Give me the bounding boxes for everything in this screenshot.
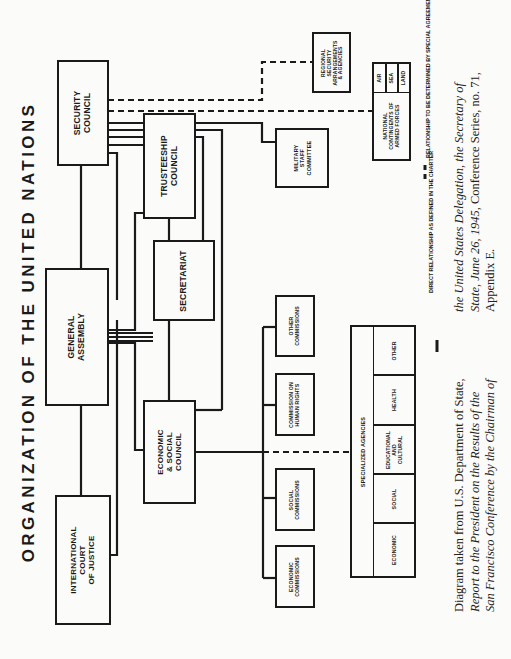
economic-commissions-label: ECONOMIC COMMISSIONS bbox=[289, 557, 301, 597]
un-organization-diagram: ORGANIZATION OF THE UNITED NATIONS SECUR… bbox=[0, 0, 511, 659]
agency-social-cell: SOCIAL bbox=[373, 473, 416, 524]
caption-line-5b: Conference Series, no. 71, bbox=[468, 72, 482, 207]
trusteeship-council-box: TRUSTEESHIP COUNCIL bbox=[143, 113, 196, 219]
other-commissions-label: OTHER COMMISSIONS bbox=[289, 306, 301, 346]
national-contingents-box: AIR SEA LAND NATIONAL CONTINGENTS OF ARM… bbox=[372, 62, 411, 161]
agency-economic-cell: ECONOMIC bbox=[373, 522, 416, 578]
human-rights-commission-box: COMMISSION ON HUMAN RIGHTS bbox=[275, 373, 315, 436]
security-council-label: SECURITY COUNCIL bbox=[73, 91, 93, 136]
social-commissions-label: SOCIAL COMMISSIONS bbox=[289, 480, 301, 520]
specialized-agencies-box: SPECIALIZED AGENCIES OTHER HEALTH EDUCAT… bbox=[350, 325, 416, 578]
legend-direct-relationship: DIRECT RELATIONSHIP AS DEFINED IN THE CH… bbox=[428, 151, 434, 293]
caption-line-3: San Francisco Conference by the Chairman… bbox=[483, 379, 497, 612]
caption-block-right: the United States Delegation, the Secret… bbox=[452, 72, 499, 312]
regional-security-box: REGIONAL SECURITY ARRANGEMENTS & AGENCIE… bbox=[312, 32, 351, 93]
agency-educational-cultural-cell: EDUCATIONAL AND CULTURAL bbox=[373, 424, 416, 475]
agency-other-cell: OTHER bbox=[373, 325, 416, 376]
specialized-agencies-label: SPECIALIZED AGENCIES bbox=[359, 416, 365, 486]
economic-commissions-box: ECONOMIC COMMISSIONS bbox=[275, 545, 315, 608]
international-court-box: INTERNATIONAL COURT OF JUSTICE bbox=[55, 495, 111, 625]
national-contingents-label: NATIONAL CONTINGENTS OF ARMED FORCES bbox=[383, 102, 400, 150]
land-cell: LAND bbox=[397, 62, 411, 93]
other-commissions-box: OTHER COMMISSIONS bbox=[275, 295, 315, 357]
social-commissions-box: SOCIAL COMMISSIONS bbox=[275, 468, 315, 531]
general-assembly-label: GENERAL ASSEMBLY bbox=[67, 313, 87, 361]
international-court-label: INTERNATIONAL COURT OF JUSTICE bbox=[69, 526, 97, 593]
ecosoc-box: ECONOMIC & SOCIAL COUNCIL bbox=[143, 400, 196, 504]
caption-line-1: Diagram taken from U.S. Department of St… bbox=[452, 378, 468, 612]
trusteeship-council-label: TRUSTEESHIP COUNCIL bbox=[160, 135, 180, 197]
regional-security-label: REGIONAL SECURITY ARRANGEMENTS & AGENCIE… bbox=[320, 40, 343, 85]
caption-line-5a: State, June 26, 1945, bbox=[468, 207, 482, 312]
military-staff-committee-box: MILITARY STAFF COMMITTEE bbox=[275, 128, 329, 188]
caption-line-2: Report to the President on the Results o… bbox=[468, 392, 482, 612]
caption-block-left: Diagram taken from U.S. Department of St… bbox=[452, 378, 499, 612]
human-rights-commission-label: COMMISSION ON HUMAN RIGHTS bbox=[289, 382, 301, 428]
diagram-title: ORGANIZATION OF THE UNITED NATIONS bbox=[19, 102, 39, 563]
caption-line-6: Appendix E. bbox=[483, 72, 499, 312]
secretariat-box: SECRETARIAT bbox=[153, 240, 215, 321]
ecosoc-label: ECONOMIC & SOCIAL COUNCIL bbox=[156, 429, 184, 475]
military-staff-committee-label: MILITARY STAFF COMMITTEE bbox=[293, 141, 312, 176]
legend-special-relationship: RELATIONSHIP TO BE DETERMINED BY SPECIAL… bbox=[425, 0, 431, 158]
caption-line-4: the United States Delegation, the Secret… bbox=[452, 83, 466, 312]
general-assembly-box: GENERAL ASSEMBLY bbox=[45, 268, 109, 406]
secretariat-label: SECRETARIAT bbox=[179, 250, 189, 311]
agency-health-cell: HEALTH bbox=[373, 374, 416, 426]
security-council-box: SECURITY COUNCIL bbox=[57, 60, 109, 166]
